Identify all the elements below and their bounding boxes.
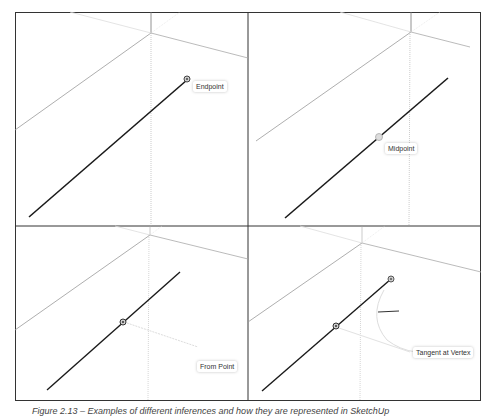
tooltip-midpoint: Midpoint <box>385 143 417 154</box>
tooltip-tangent-at-vertex: Tangent at Vertex <box>413 347 473 358</box>
panel-from-point <box>15 226 248 401</box>
panel-midpoint <box>256 12 470 226</box>
tooltip-endpoint: Endpoint <box>193 81 227 92</box>
figure-caption: Figure 2.13 – Examples of different infe… <box>32 406 389 416</box>
midpoint-marker-icon <box>376 134 383 141</box>
tooltip-from-point: From Point <box>197 361 237 372</box>
panel-tangent-at-vertex <box>248 226 481 401</box>
panel-endpoint <box>15 12 248 226</box>
